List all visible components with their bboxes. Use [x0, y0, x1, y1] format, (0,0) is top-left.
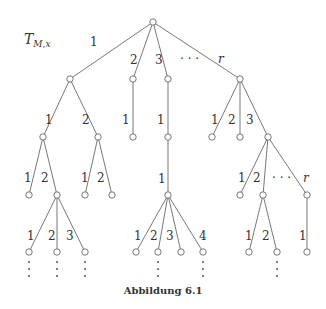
tree-node — [246, 249, 252, 255]
tree-node — [178, 249, 184, 255]
tree-node — [26, 192, 32, 198]
tree-node — [95, 134, 101, 140]
tree-node — [155, 249, 161, 255]
tree-edge — [249, 195, 263, 252]
edge-label: 2 — [150, 229, 158, 243]
tree-node — [237, 192, 243, 198]
tree-diagram: 123r12111231212112r1231234121 · · ·· · ·… — [0, 0, 326, 309]
tree-node — [304, 249, 310, 255]
edge-label: 2 — [97, 171, 105, 185]
tree-node — [40, 134, 46, 140]
edge-label: 1 — [122, 113, 130, 127]
tree-node — [109, 192, 115, 198]
edge-label: 2 — [82, 113, 90, 127]
horizontal-ellipsis: · · · — [272, 171, 291, 185]
tree-node — [54, 192, 60, 198]
tree-edge — [70, 79, 98, 137]
edge-label: 4 — [199, 229, 207, 243]
edge-label: 2 — [48, 229, 56, 243]
edge-label: 2 — [262, 229, 270, 243]
tree-edge — [240, 79, 268, 137]
tree-edge — [168, 195, 203, 252]
tree-edge — [85, 137, 98, 195]
edge-label: 1 — [157, 113, 165, 127]
tree-edge — [70, 22, 153, 79]
edge-label: 1 — [158, 172, 166, 186]
tree-edge — [43, 137, 57, 195]
edge-label: 3 — [155, 53, 163, 67]
tree-node — [165, 192, 171, 198]
edge-label: 1 — [245, 229, 253, 243]
vertical-ellipsis-dot — [28, 261, 30, 263]
tree-nodes — [26, 19, 310, 255]
vertical-ellipsis-dot — [202, 275, 204, 277]
vertical-ellipsis-dot — [202, 261, 204, 263]
tree-node — [237, 76, 243, 82]
vertical-ellipsis-dot — [56, 261, 58, 263]
vertical-ellipsis-dot — [157, 268, 159, 270]
tree-node — [209, 134, 215, 140]
title-subscript: M,x — [32, 39, 50, 49]
vertical-ellipsis-dot — [56, 268, 58, 270]
tree-edge — [29, 137, 43, 195]
tree-edge — [168, 195, 181, 252]
edge-label: 1 — [27, 229, 35, 243]
edge-label: 1 — [45, 113, 53, 127]
vertical-ellipsis-dot — [56, 275, 58, 277]
vertical-ellipsis-dot — [276, 261, 278, 263]
edge-label: 2 — [228, 113, 236, 127]
edge-label: r — [303, 171, 310, 185]
tree-edge — [57, 195, 85, 252]
vertical-ellipsis-dot — [157, 261, 159, 263]
tree-node — [304, 192, 310, 198]
tree-edge — [263, 195, 277, 252]
tree-node — [200, 249, 206, 255]
tree-node — [67, 76, 73, 82]
vertical-ellipsis-dot — [84, 268, 86, 270]
tree-edge — [29, 195, 57, 252]
vertical-ellipsis-dot — [28, 275, 30, 277]
tree-node — [165, 134, 171, 140]
tree-node — [54, 249, 60, 255]
tree-node — [165, 76, 171, 82]
edge-label: 1 — [238, 171, 246, 185]
tree-node — [265, 134, 271, 140]
tree-edge — [268, 137, 307, 195]
edge-label: 2 — [253, 171, 261, 185]
horizontal-ellipsis: · · · — [180, 52, 199, 66]
edge-label: 2 — [130, 53, 138, 67]
vertical-ellipsis-dot — [157, 275, 159, 277]
tree-edge — [212, 79, 240, 137]
vertical-ellipsis-dot — [202, 268, 204, 270]
edge-label: 1 — [299, 229, 307, 243]
edge-label: 3 — [66, 229, 74, 243]
tree-edge — [98, 137, 112, 195]
edge-label: 3 — [166, 229, 174, 243]
tree-node — [82, 249, 88, 255]
edge-label: 1 — [81, 171, 89, 185]
vertical-ellipsis-dot — [28, 268, 30, 270]
vertical-ellipsis-dot — [84, 275, 86, 277]
vertical-ellipsis-dot — [276, 268, 278, 270]
tree-node — [150, 19, 156, 25]
diagram-title: TM,x — [24, 31, 51, 49]
tree-edge — [133, 22, 153, 79]
tree-node — [260, 192, 266, 198]
edge-label: 1 — [211, 113, 219, 127]
edge-label: 1 — [90, 35, 98, 49]
edge-label: 1 — [24, 171, 32, 185]
edge-label: 1 — [134, 229, 142, 243]
edge-label: r — [218, 52, 225, 66]
tree-node — [274, 249, 280, 255]
figure-caption: Abbildung 6.1 — [123, 285, 203, 296]
tree-node — [82, 192, 88, 198]
tree-node — [237, 134, 243, 140]
edge-label: 2 — [41, 171, 49, 185]
tree-node — [130, 76, 136, 82]
tree-node — [133, 249, 139, 255]
tree-edge — [43, 79, 70, 137]
edge-label: 3 — [246, 113, 254, 127]
vertical-ellipsis-dot — [276, 275, 278, 277]
tree-node — [130, 134, 136, 140]
tree-node — [26, 249, 32, 255]
